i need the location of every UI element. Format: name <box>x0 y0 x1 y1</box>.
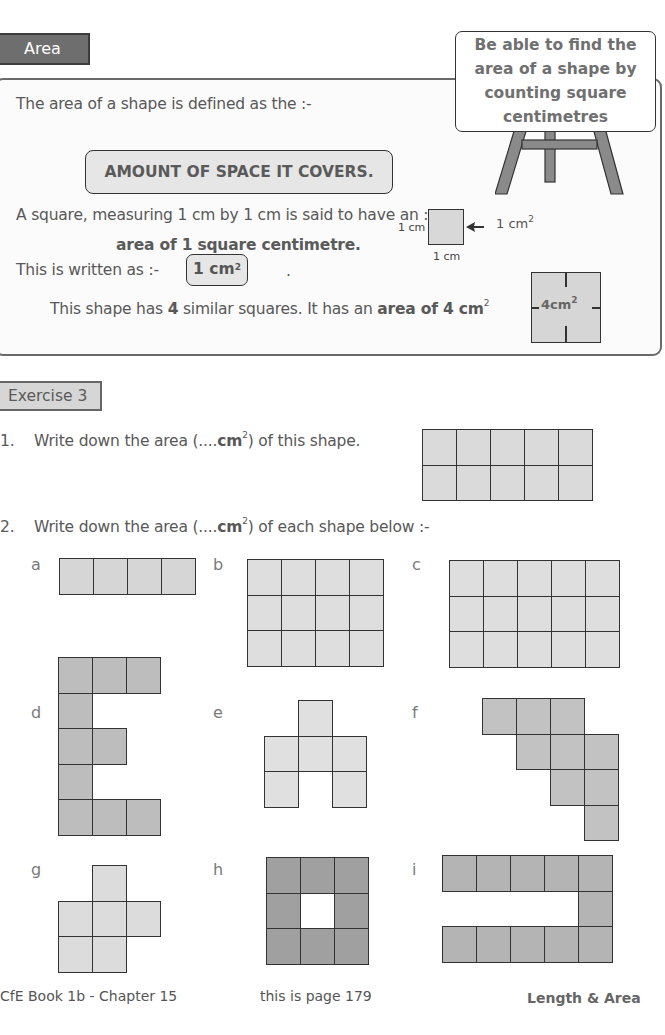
grid-square <box>58 693 93 730</box>
grid-square <box>58 799 93 836</box>
grid-square <box>517 596 552 633</box>
grid-square <box>92 865 127 902</box>
grid-square <box>161 558 196 595</box>
grid-square <box>266 928 301 965</box>
shape-label-g: g <box>31 860 41 879</box>
grid-square <box>334 857 369 894</box>
arrow-left-icon <box>466 222 486 232</box>
area-label-text: 1 cm <box>496 216 528 231</box>
grid-square <box>456 465 491 502</box>
shape-label-e: e <box>213 703 223 722</box>
unit-exponent: 2 <box>235 262 241 272</box>
unit-notation-box: 1 cm2 <box>186 254 248 286</box>
grid-square <box>264 736 299 773</box>
q2-exp: 2 <box>242 516 248 526</box>
grid-square <box>490 465 525 502</box>
grid-square <box>264 771 299 808</box>
q1-unit: cm <box>217 432 242 450</box>
easel-icon <box>495 128 625 198</box>
footer-book-chapter: CfE Book 1b - Chapter 15 <box>0 988 177 1004</box>
grid-square <box>332 736 367 773</box>
grid-square <box>300 857 335 894</box>
grid-square <box>315 630 350 667</box>
grid-square <box>558 465 593 502</box>
grid-square <box>578 855 613 892</box>
grid-square <box>126 657 161 694</box>
goal-line: counting square <box>456 81 655 105</box>
grid-square <box>510 926 545 963</box>
grid-square <box>551 560 586 597</box>
grid-square <box>298 736 333 773</box>
grid-square <box>550 698 585 735</box>
shape-label-b: b <box>213 555 223 574</box>
grid-square <box>456 429 491 466</box>
grid-square <box>247 559 282 596</box>
footer-page-number: this is page 179 <box>260 988 372 1004</box>
grid-square <box>315 595 350 632</box>
grid-square <box>281 595 316 632</box>
grid-square <box>92 936 127 973</box>
grid-square <box>550 734 585 771</box>
statement-exp: 2 <box>484 298 490 308</box>
learning-goal-box: Be able to find the area of a shape by c… <box>455 31 656 132</box>
grid-square <box>490 429 525 466</box>
q1-exp: 2 <box>242 430 248 440</box>
goal-line: area of a shape by <box>456 57 655 81</box>
grid-square <box>442 926 477 963</box>
exercise-tab: Exercise 3 <box>0 381 102 411</box>
statement-area: area of 4 cm <box>377 300 483 318</box>
grid-square <box>585 631 620 668</box>
grid-square <box>551 596 586 633</box>
statement-mid: similar squares. It has an <box>178 300 377 318</box>
grid-square <box>476 926 511 963</box>
grid-square <box>93 558 128 595</box>
grid-square <box>281 559 316 596</box>
section-tab-area: Area <box>0 33 90 65</box>
shape-label-f: f <box>412 703 418 722</box>
one-cm-square <box>428 209 464 245</box>
question-1-number: 1. <box>0 432 14 450</box>
grid-square <box>510 855 545 892</box>
unit-text: 1 cm <box>193 260 235 278</box>
square-area-statement: area of 1 square centimetre. <box>116 236 361 254</box>
grid-square <box>300 928 335 965</box>
shape-label-a: a <box>31 555 41 574</box>
grid-square <box>92 657 127 694</box>
area-label-exp: 2 <box>528 214 534 224</box>
goal-line: Be able to find the <box>456 33 655 57</box>
grid-square <box>126 799 161 836</box>
grid-square <box>449 560 484 597</box>
grid-square <box>349 559 384 596</box>
grid-square <box>315 559 350 596</box>
grid-square <box>517 631 552 668</box>
q1-pre: Write down the area (.... <box>34 432 217 450</box>
grid-square <box>442 855 477 892</box>
grid-square <box>482 698 517 735</box>
grid-square <box>58 657 93 694</box>
question-2-number: 2. <box>0 518 14 536</box>
grid-square <box>449 631 484 668</box>
grid-square <box>516 734 551 771</box>
grid-square <box>476 855 511 892</box>
grid-square <box>92 901 127 938</box>
grid-square <box>266 893 301 930</box>
written-as-label: This is written as :- <box>16 261 159 279</box>
shape-label-h: h <box>213 860 223 879</box>
grid-square <box>449 596 484 633</box>
four-cm-square: 4cm2 <box>531 272 601 343</box>
area-label: 1 cm2 <box>496 216 534 231</box>
question-1-text: Write down the area (....cm2) of this sh… <box>34 432 360 450</box>
grid-square <box>92 728 127 765</box>
grid-square <box>422 465 457 502</box>
grid-square <box>349 630 384 667</box>
grid-square <box>551 631 586 668</box>
shape-label-c: c <box>412 555 421 574</box>
grid-square <box>517 560 552 597</box>
grid-square <box>298 700 333 737</box>
shape-label-i: i <box>412 860 416 879</box>
grid-square <box>558 429 593 466</box>
grid-square <box>584 805 619 842</box>
grid-square <box>92 799 127 836</box>
grid-square <box>544 855 579 892</box>
four-squares-statement: This shape has 4 similar squares. It has… <box>50 300 489 318</box>
